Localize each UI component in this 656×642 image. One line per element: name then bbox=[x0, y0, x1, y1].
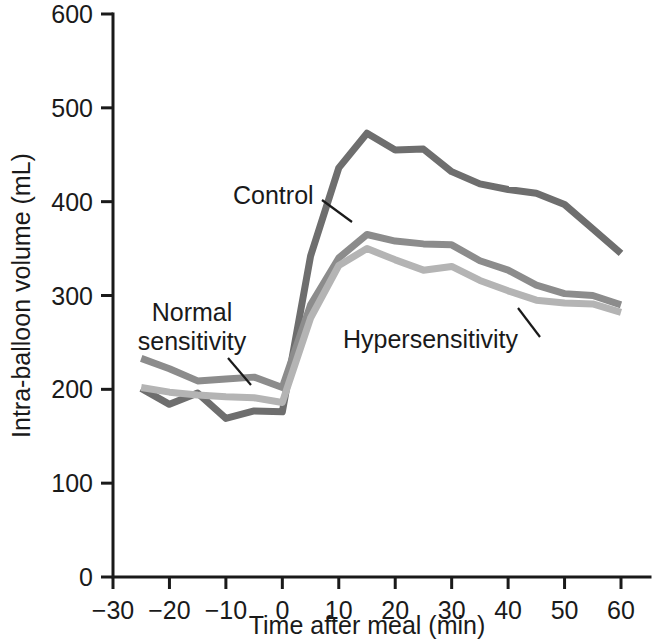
series-label-hypersensitivity: Hypersensitivity bbox=[343, 325, 519, 353]
series-label-control: Control bbox=[233, 181, 314, 209]
data-series-group bbox=[141, 133, 621, 418]
series-label-normal-sensitivity-line2: sensitivity bbox=[138, 327, 247, 355]
y-axis-tick-labels: 0100200300400500600 bbox=[51, 0, 93, 591]
x-tick-label--10: −10 bbox=[205, 596, 247, 624]
y-tick-label-200: 200 bbox=[51, 375, 93, 403]
y-axis-title: Intra-balloon volume (mL) bbox=[7, 153, 35, 438]
chart-figure: 0100200300400500600 −30−20−1001020304050… bbox=[0, 0, 656, 642]
x-tick-label--20: −20 bbox=[148, 596, 190, 624]
x-tick-label-50: 50 bbox=[551, 596, 579, 624]
x-axis-title: Time after meal (min) bbox=[249, 611, 486, 639]
y-tick-label-0: 0 bbox=[79, 563, 93, 591]
x-tick-label-60: 60 bbox=[607, 596, 635, 624]
y-tick-label-400: 400 bbox=[51, 188, 93, 216]
x-tick-label--30: −30 bbox=[92, 596, 134, 624]
series-line-control bbox=[141, 133, 621, 418]
series-label-normal-sensitivity-line1: Normal bbox=[152, 298, 233, 326]
y-tick-label-500: 500 bbox=[51, 94, 93, 122]
y-tick-label-300: 300 bbox=[51, 282, 93, 310]
leader-line-hypersensitivity bbox=[518, 308, 540, 337]
y-tick-label-600: 600 bbox=[51, 0, 93, 28]
line-chart: 0100200300400500600 −30−20−1001020304050… bbox=[0, 0, 656, 642]
x-tick-label-40: 40 bbox=[494, 596, 522, 624]
y-tick-label-100: 100 bbox=[51, 469, 93, 497]
